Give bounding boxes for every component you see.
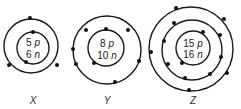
atom-x-label: X: [29, 95, 37, 106]
electron: [126, 28, 130, 32]
atom-z-label: Z: [189, 95, 197, 106]
electron: [55, 63, 59, 67]
electron: [219, 55, 223, 59]
electron: [180, 61, 184, 65]
atom-z: 15 p 16 n Z: [149, 6, 233, 106]
electron: [74, 62, 78, 66]
atom-y-label: Y: [104, 95, 112, 106]
electron: [187, 88, 191, 92]
atom-z-protons: 15 p: [183, 38, 203, 49]
electron: [104, 27, 108, 31]
electron: [172, 21, 176, 25]
atom-y-protons: 8 p: [100, 38, 114, 49]
atom-x-neutrons: 6 n: [26, 49, 40, 60]
atom-z-neutrons: 16 n: [183, 49, 203, 60]
electron: [201, 30, 205, 34]
electron: [92, 61, 96, 65]
electron: [113, 80, 117, 84]
electron: [71, 47, 75, 51]
electron: [28, 16, 32, 20]
electron: [84, 28, 88, 32]
electron: [166, 62, 170, 66]
electron: [7, 63, 11, 67]
electron: [137, 59, 141, 63]
atom-x: 5 p 6 n X: [4, 16, 59, 106]
electron: [162, 39, 166, 43]
atom-y-neutrons: 10 n: [97, 50, 117, 61]
electron: [218, 33, 222, 37]
bohr-diagrams: 5 p 6 n X 8 p 10 n Y: [0, 0, 241, 109]
electron: [183, 76, 187, 80]
electron: [225, 71, 229, 75]
electron: [174, 6, 178, 10]
atom-y: 8 p 10 n Y: [71, 16, 141, 106]
electron: [222, 17, 226, 21]
electron: [31, 30, 35, 34]
electron: [24, 60, 28, 64]
atom-x-protons: 5 p: [26, 37, 40, 48]
electron: [149, 50, 153, 54]
electron: [208, 72, 212, 76]
